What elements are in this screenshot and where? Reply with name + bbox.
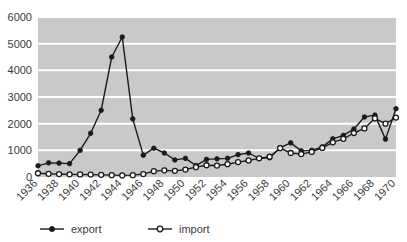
data-point-marker xyxy=(78,148,83,153)
legend-item-export[interactable]: export xyxy=(40,223,102,235)
data-point-marker xyxy=(162,151,167,156)
data-point-marker xyxy=(341,136,346,141)
x-axis-tick-label: 1970 xyxy=(372,177,398,203)
x-axis-tick-label: 1936 xyxy=(14,177,40,203)
data-point-marker xyxy=(215,163,220,168)
x-axis-tick-label: 1952 xyxy=(182,177,208,203)
x-axis-tick-label: 1964 xyxy=(308,177,334,203)
data-point-marker xyxy=(267,154,272,159)
legend-marker xyxy=(49,226,54,231)
data-point-marker xyxy=(278,146,283,151)
data-point-marker xyxy=(225,156,230,161)
legend: exportimport xyxy=(40,223,210,235)
data-point-marker xyxy=(246,158,251,163)
data-point-marker xyxy=(394,115,399,120)
data-point-marker xyxy=(57,172,62,177)
y-axis-tick-label: 1000 xyxy=(8,144,32,156)
data-point-marker xyxy=(162,168,167,173)
data-point-marker xyxy=(288,151,293,156)
data-point-marker xyxy=(309,149,314,154)
data-point-marker xyxy=(88,172,93,177)
data-point-marker xyxy=(120,173,125,178)
x-axis-tick-label: 1944 xyxy=(98,177,124,203)
x-axis-tick-label: 1942 xyxy=(77,177,103,203)
legend-label: export xyxy=(71,223,102,235)
x-axis-tick-label: 1962 xyxy=(287,177,313,203)
x-axis-tick-label: 1960 xyxy=(266,177,292,203)
data-point-marker xyxy=(109,173,114,178)
data-point-marker xyxy=(67,172,72,177)
data-point-marker xyxy=(330,140,335,145)
data-point-marker xyxy=(152,146,157,151)
data-point-marker xyxy=(215,157,220,162)
x-axis-tick-label: 1940 xyxy=(56,177,82,203)
data-point-marker xyxy=(36,171,41,176)
data-point-marker xyxy=(88,131,93,136)
data-point-marker xyxy=(193,165,198,170)
data-point-marker xyxy=(46,161,51,166)
data-point-marker xyxy=(130,117,135,122)
x-axis-tick-label: 1950 xyxy=(161,177,187,203)
data-point-marker xyxy=(362,115,367,120)
legend-label: import xyxy=(179,223,210,235)
data-point-marker xyxy=(120,35,125,40)
data-point-marker xyxy=(99,108,104,113)
x-axis-tick-label: 1948 xyxy=(140,177,166,203)
chart-canvas: 0100020003000400050006000193619381940194… xyxy=(0,0,407,242)
data-point-marker xyxy=(257,156,262,161)
y-axis-ticks: 0100020003000400050006000 xyxy=(8,11,32,183)
data-point-marker xyxy=(204,157,209,162)
x-axis-tick-label: 1938 xyxy=(35,177,61,203)
y-axis-tick-label: 3000 xyxy=(8,91,32,103)
data-point-marker xyxy=(351,131,356,136)
data-point-marker xyxy=(151,169,156,174)
data-point-marker xyxy=(225,162,230,167)
y-axis-tick-label: 6000 xyxy=(8,11,32,23)
x-axis-tick-label: 1968 xyxy=(351,177,377,203)
x-axis-tick-label: 1946 xyxy=(119,177,145,203)
data-point-marker xyxy=(236,152,241,157)
x-axis-tick-label: 1958 xyxy=(245,177,271,203)
x-axis-tick-label: 1954 xyxy=(203,177,229,203)
data-point-marker xyxy=(173,158,178,163)
legend-marker xyxy=(157,226,163,232)
y-axis-tick-label: 5000 xyxy=(8,38,32,50)
data-point-marker xyxy=(183,167,188,172)
data-point-marker xyxy=(99,172,104,177)
data-point-marker xyxy=(288,141,293,146)
data-point-marker xyxy=(236,160,241,165)
data-point-marker xyxy=(36,164,41,169)
data-point-marker xyxy=(183,156,188,161)
line-chart: 0100020003000400050006000193619381940194… xyxy=(0,0,407,242)
y-axis-tick-label: 4000 xyxy=(8,64,32,76)
data-point-marker xyxy=(383,121,388,126)
data-point-marker xyxy=(394,106,399,111)
data-point-marker xyxy=(204,163,209,168)
data-point-marker xyxy=(141,172,146,177)
data-point-marker xyxy=(299,152,304,157)
data-point-marker xyxy=(109,55,114,60)
data-point-marker xyxy=(383,137,388,142)
data-point-marker xyxy=(372,116,377,121)
legend-item-import[interactable]: import xyxy=(148,223,210,235)
x-axis-tick-label: 1966 xyxy=(329,177,355,203)
data-point-marker xyxy=(246,151,251,156)
data-point-marker xyxy=(320,145,325,150)
y-axis-tick-label: 2000 xyxy=(8,118,32,130)
data-point-marker xyxy=(78,172,83,177)
data-point-marker xyxy=(67,161,72,166)
data-point-marker xyxy=(172,168,177,173)
data-point-marker xyxy=(141,153,146,158)
x-axis-tick-label: 1956 xyxy=(224,177,250,203)
data-point-marker xyxy=(130,173,135,178)
data-point-marker xyxy=(46,171,51,176)
data-point-marker xyxy=(362,126,367,131)
x-axis-ticks: 1936193819401942194419461948195019521954… xyxy=(14,177,398,203)
data-point-marker xyxy=(57,161,62,166)
